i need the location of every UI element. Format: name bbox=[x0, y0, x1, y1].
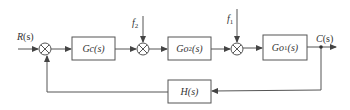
input-label: R(s) bbox=[17, 32, 34, 42]
block-h-label: H(s) bbox=[168, 80, 211, 103]
block-go2-label: Go2(s) bbox=[168, 37, 211, 60]
summing-junction-f2 bbox=[137, 43, 149, 55]
disturbance-f2-label: f2 bbox=[132, 18, 138, 30]
disturbance-f1-label: f1 bbox=[227, 14, 233, 26]
summing-junction-f1 bbox=[231, 43, 243, 55]
block-go1-label: Go1(s) bbox=[263, 35, 307, 60]
branch-point bbox=[319, 45, 323, 49]
block-diagram: R(s) f2 f1 C(s) Gc(s) Go2(s) Go1(s) H(s) bbox=[0, 0, 350, 110]
summing-junction-error bbox=[39, 43, 51, 55]
feedback-signal-line bbox=[47, 56, 168, 92]
output-label: C(s) bbox=[316, 34, 333, 44]
block-gc-label: Gc(s) bbox=[72, 37, 115, 60]
